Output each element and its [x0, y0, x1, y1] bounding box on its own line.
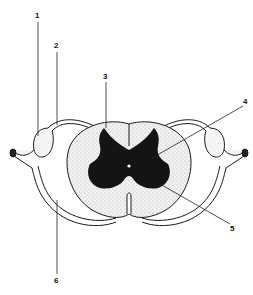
spinal-cord-diagram	[0, 0, 253, 295]
label-5: 5	[230, 225, 234, 233]
label-1: 1	[35, 12, 39, 20]
label-2: 2	[54, 42, 58, 50]
label-4: 4	[243, 98, 247, 106]
label-6: 6	[54, 277, 58, 285]
label-3: 3	[103, 73, 107, 81]
central-canal	[127, 164, 130, 167]
